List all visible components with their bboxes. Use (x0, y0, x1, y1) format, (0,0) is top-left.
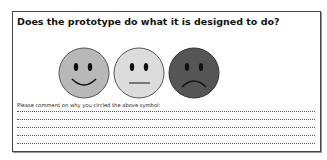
comment-line-2[interactable] (17, 119, 315, 120)
comment-line-3[interactable] (17, 127, 315, 128)
happy-face-icon[interactable] (59, 48, 109, 98)
comment-line-4[interactable] (17, 135, 315, 136)
comment-line-5[interactable] (17, 143, 315, 144)
neutral-face-icon[interactable] (114, 48, 164, 98)
comment-line-1[interactable] (17, 111, 315, 112)
comment-prompt: Please comment on why you circled the ab… (17, 102, 160, 108)
survey-question-box: Does the prototype do what it is designe… (12, 11, 321, 152)
sad-face-icon[interactable] (169, 48, 219, 98)
rating-faces (13, 12, 320, 102)
